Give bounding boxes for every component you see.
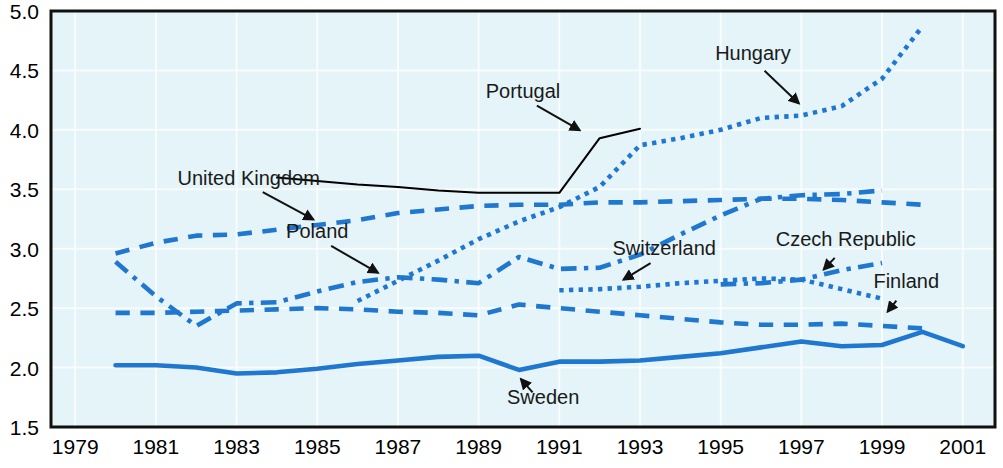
- x-tick-label: 1981: [133, 435, 180, 458]
- y-tick-label: 1.5: [10, 416, 39, 439]
- x-tick-label: 1997: [778, 435, 825, 458]
- y-tick-label: 2.5: [10, 297, 39, 320]
- y-tick-label: 4.5: [10, 59, 39, 82]
- series-label-portugal: Portugal: [486, 80, 561, 102]
- series-label-united-kingdom: United Kingdom: [178, 167, 320, 189]
- x-tick-label: 1987: [375, 435, 422, 458]
- y-tick-label: 4.0: [10, 119, 39, 142]
- series-label-hungary: Hungary: [715, 42, 791, 64]
- series-label-switzerland: Switzerland: [613, 237, 716, 259]
- y-tick-label: 3.5: [10, 178, 39, 201]
- x-tick-label: 2001: [939, 435, 986, 458]
- series-label-czech-republic: Czech Republic: [776, 228, 916, 250]
- y-axis-tick-labels: 1.52.02.53.03.54.04.55.0: [10, 0, 39, 439]
- line-chart: 1.52.02.53.03.54.04.55.0 197919811983198…: [0, 0, 1003, 468]
- series-label-finland: Finland: [873, 270, 939, 292]
- x-tick-label: 1983: [213, 435, 260, 458]
- y-tick-label: 5.0: [10, 0, 39, 23]
- series-label-sweden: Sweden: [507, 386, 579, 408]
- x-tick-label: 1985: [294, 435, 341, 458]
- x-tick-label: 1989: [455, 435, 502, 458]
- x-tick-label: 1979: [52, 435, 99, 458]
- series-label-poland: Poland: [286, 220, 348, 242]
- x-tick-label: 1995: [697, 435, 744, 458]
- x-tick-label: 1999: [859, 435, 906, 458]
- x-tick-label: 1991: [536, 435, 583, 458]
- x-axis-tick-labels: 1979198119831985198719891991199319951997…: [52, 435, 986, 458]
- chart-page: 1.52.02.53.03.54.04.55.0 197919811983198…: [0, 0, 1003, 468]
- y-tick-label: 3.0: [10, 238, 39, 261]
- y-tick-label: 2.0: [10, 357, 39, 380]
- x-tick-label: 1993: [617, 435, 664, 458]
